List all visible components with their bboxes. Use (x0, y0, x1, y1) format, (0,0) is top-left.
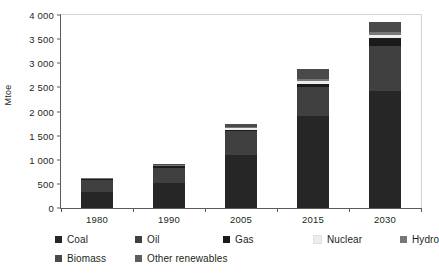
legend-swatch-icon (313, 235, 322, 244)
bar-segment-biomass (297, 69, 329, 79)
legend-swatch-icon (55, 255, 62, 262)
y-axis-label: Mtoe (3, 73, 13, 117)
chart-legend: CoalOilGasNuclearHydroBiomassOther renew… (55, 234, 430, 272)
legend-swatch-icon (55, 236, 62, 243)
legend-item-oil[interactable]: Oil (135, 234, 160, 245)
legend-label: Coal (67, 234, 88, 245)
legend-swatch-icon (223, 236, 230, 243)
bar-segment-oil (297, 87, 329, 116)
x-tick-mark (133, 208, 134, 212)
legend-item-nuclear[interactable]: Nuclear (313, 234, 362, 245)
legend-label: Gas (235, 234, 254, 245)
bar-1980 (81, 178, 113, 208)
bar-2015 (297, 69, 329, 208)
x-tick-label-1990: 1990 (158, 214, 180, 225)
bar-segment-oil (369, 46, 401, 91)
plot-area: 05001 0001 5002 0002 5003 0003 5004 000 … (60, 14, 422, 209)
bar-1990 (153, 164, 185, 208)
legend-row: BiomassOther renewables (55, 253, 430, 272)
bar-group (61, 15, 421, 208)
legend-item-coal[interactable]: Coal (55, 234, 88, 245)
bar-segment-oil (225, 131, 257, 154)
x-tick-mark (349, 208, 350, 212)
legend-label: Oil (147, 234, 160, 245)
bar-segment-coal (153, 183, 185, 208)
bar-2005 (225, 124, 257, 208)
bar-segment-coal (225, 155, 257, 208)
bar-segment-oil (81, 180, 113, 192)
bar-2030 (369, 22, 401, 208)
bar-segment-coal (297, 116, 329, 208)
x-tick-label-2005: 2005 (230, 214, 252, 225)
x-tick-mark (421, 208, 422, 212)
legend-label: Nuclear (327, 234, 362, 245)
x-tick-mark (61, 208, 62, 212)
bar-segment-coal (81, 192, 113, 208)
legend-item-biomass[interactable]: Biomass (55, 253, 106, 264)
legend-item-other-renewables[interactable]: Other renewables (135, 253, 228, 264)
legend-swatch-icon (135, 255, 142, 262)
legend-swatch-icon (135, 236, 142, 243)
bar-segment-coal (369, 91, 401, 208)
legend-item-gas[interactable]: Gas (223, 234, 254, 245)
bar-segment-biomass (369, 22, 401, 32)
legend-swatch-icon (400, 236, 407, 243)
legend-label: Hydro (412, 234, 439, 245)
bar-segment-oil (153, 168, 185, 183)
x-tick-label-2030: 2030 (374, 214, 396, 225)
x-tick-label-2015: 2015 (302, 214, 324, 225)
legend-row: CoalOilGasNuclearHydro (55, 234, 430, 253)
legend-item-hydro[interactable]: Hydro (400, 234, 439, 245)
bar-segment-gas (369, 38, 401, 46)
legend-label: Other renewables (147, 253, 228, 264)
x-tick-mark (277, 208, 278, 212)
x-tick-mark (205, 208, 206, 212)
legend-label: Biomass (67, 253, 106, 264)
x-tick-label-1980: 1980 (86, 214, 108, 225)
